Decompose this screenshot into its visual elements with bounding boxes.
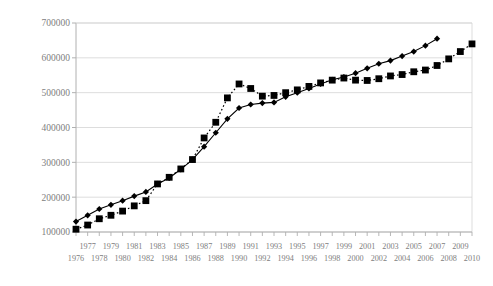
y-axis-tick-label: 500000 — [42, 88, 71, 98]
x-axis-tick-label: 1976 — [68, 254, 84, 263]
y-axis-tick-label: 200000 — [42, 193, 71, 203]
data-point-marker — [248, 101, 254, 107]
x-axis-tick-labels: 1976197719781979198019811982198319841985… — [68, 242, 480, 263]
data-point-marker — [84, 222, 91, 229]
x-axis-tick-label: 1992 — [254, 254, 270, 263]
x-axis-tick-label: 1989 — [219, 242, 235, 251]
data-point-marker — [108, 212, 115, 219]
data-point-marker — [410, 68, 417, 75]
x-axis-tick-label: 2001 — [359, 242, 375, 251]
chart-container: 7000006000005000004000003000002000001000… — [0, 0, 493, 286]
data-point-marker — [364, 77, 371, 84]
x-axis-tick-label: 1997 — [312, 242, 328, 251]
x-axis-tick-label: 1995 — [289, 242, 305, 251]
x-axis-tick-label: 1983 — [149, 242, 165, 251]
x-axis-tick-label: 1982 — [138, 254, 154, 263]
x-axis-tick-label: 1979 — [103, 242, 119, 251]
data-point-marker — [96, 215, 103, 222]
data-point-marker — [422, 67, 429, 74]
data-point-marker — [271, 99, 277, 105]
data-point-marker — [73, 218, 79, 224]
x-axis-tick-label: 2000 — [347, 254, 363, 263]
data-point-marker — [445, 55, 452, 62]
x-axis-tick-label: 1994 — [277, 254, 293, 263]
x-axis-tick-label: 1988 — [208, 254, 224, 263]
y-axis-tick-label: 300000 — [42, 158, 71, 168]
data-point-marker — [364, 65, 370, 71]
y-axis-tick-label: 700000 — [42, 18, 71, 28]
x-axis-tick-label: 2006 — [417, 254, 433, 263]
x-axis-tick-label: 2004 — [394, 254, 410, 263]
y-axis-tick-label: 400000 — [42, 123, 71, 133]
data-point-marker — [85, 212, 91, 218]
gridlines: 7000006000005000004000003000002000001000… — [42, 18, 473, 237]
x-axis-tick-label: 1987 — [196, 242, 212, 251]
x-axis-tick-label: 1977 — [79, 242, 95, 251]
data-point-marker — [119, 208, 126, 215]
x-axis-tick-label: 1996 — [301, 254, 317, 263]
data-point-marker — [387, 73, 394, 80]
y-axis-tick-label: 600000 — [42, 53, 71, 63]
data-point-marker — [457, 48, 464, 55]
data-point-marker — [131, 193, 137, 199]
y-axis-tick-label: 100000 — [42, 227, 71, 237]
data-point-marker — [259, 100, 265, 106]
data-point-marker — [131, 202, 138, 209]
data-point-marker — [271, 92, 278, 99]
data-point-marker — [376, 61, 382, 67]
x-axis-tick-label: 1981 — [126, 242, 142, 251]
x-axis-tick-label: 1980 — [114, 254, 130, 263]
series-diamonds — [73, 36, 440, 225]
data-point-marker — [375, 75, 382, 82]
x-axis-tick-label: 2003 — [382, 242, 398, 251]
x-axis-tick-label: 1991 — [243, 242, 259, 251]
data-point-marker — [73, 226, 80, 233]
data-point-marker — [201, 135, 208, 142]
data-point-marker — [387, 58, 393, 64]
series-line — [76, 39, 437, 222]
x-axis-tick-label: 2008 — [441, 254, 457, 263]
series-squares — [73, 41, 476, 233]
data-point-marker — [143, 189, 149, 195]
data-point-marker — [422, 43, 428, 49]
data-point-marker — [96, 206, 102, 212]
x-axis-tick-label: 1998 — [324, 254, 340, 263]
x-axis-tick-label: 1993 — [266, 242, 282, 251]
x-axis-tick-label: 1978 — [91, 254, 107, 263]
x-axis-tick-label: 2010 — [464, 254, 480, 263]
data-point-marker — [399, 71, 406, 78]
data-point-marker — [352, 70, 358, 76]
data-point-marker — [434, 36, 440, 42]
data-point-marker — [212, 119, 219, 126]
data-point-marker — [236, 81, 243, 88]
data-point-marker — [247, 85, 254, 92]
line-chart: 7000006000005000004000003000002000001000… — [0, 0, 493, 286]
data-point-marker — [352, 77, 359, 84]
x-axis-tick-label: 1999 — [336, 242, 352, 251]
x-axis-tick-label: 1990 — [231, 254, 247, 263]
data-point-marker — [119, 198, 125, 204]
data-point-marker — [259, 93, 266, 100]
x-axis-tick-label: 1985 — [173, 242, 189, 251]
x-axis-tick-label: 2009 — [452, 242, 468, 251]
data-point-marker — [411, 48, 417, 54]
data-point-marker — [469, 41, 476, 48]
data-point-marker — [142, 197, 149, 204]
x-axis-tick-label: 2005 — [406, 242, 422, 251]
x-axis-tick-label: 2002 — [371, 254, 387, 263]
data-point-marker — [224, 94, 231, 101]
x-axis-tick-label: 1984 — [161, 254, 177, 263]
data-point-marker — [399, 53, 405, 59]
x-axis-tick-label: 1986 — [184, 254, 200, 263]
data-point-marker — [108, 202, 114, 208]
data-point-marker — [434, 62, 441, 69]
x-axis-tick-label: 2007 — [429, 242, 445, 251]
